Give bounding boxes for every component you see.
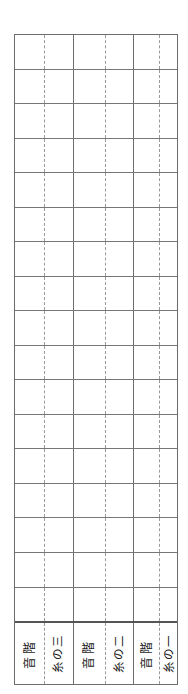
cell-scale-1[interactable]	[134, 208, 160, 242]
cell-scale-3[interactable]	[15, 346, 45, 380]
cell-string-1[interactable]	[160, 518, 178, 552]
cell-string-3[interactable]	[45, 104, 73, 138]
cell-string-3[interactable]	[45, 35, 73, 69]
cell-string-3[interactable]	[45, 518, 73, 552]
cell-string-2[interactable]	[106, 70, 134, 104]
cell-string-2[interactable]	[106, 518, 134, 552]
cell-string-2[interactable]	[106, 208, 134, 242]
cell-scale-2[interactable]	[74, 311, 106, 345]
cell-string-2[interactable]	[106, 415, 134, 449]
table-row[interactable]	[15, 553, 177, 588]
cell-string-1[interactable]	[160, 70, 178, 104]
cell-string-2[interactable]	[106, 449, 134, 483]
cell-string-1[interactable]	[160, 380, 178, 414]
cell-scale-2[interactable]	[74, 588, 106, 622]
cell-string-1[interactable]	[160, 553, 178, 587]
cell-string-1[interactable]	[160, 449, 178, 483]
cell-string-2[interactable]	[106, 346, 134, 380]
cell-string-2[interactable]	[106, 139, 134, 173]
cell-string-2[interactable]	[106, 588, 134, 622]
cell-scale-1[interactable]	[134, 277, 160, 311]
table-row[interactable]	[15, 415, 177, 450]
cell-scale-1[interactable]	[134, 553, 160, 587]
cell-scale-1[interactable]	[134, 346, 160, 380]
table-row[interactable]	[15, 208, 177, 243]
cell-scale-3[interactable]	[15, 277, 45, 311]
cell-string-1[interactable]	[160, 346, 178, 380]
cell-scale-2[interactable]	[74, 242, 106, 276]
cell-string-1[interactable]	[160, 104, 178, 138]
cell-string-2[interactable]	[106, 277, 134, 311]
cell-string-2[interactable]	[106, 311, 134, 345]
cell-scale-3[interactable]	[15, 70, 45, 104]
cell-scale-3[interactable]	[15, 518, 45, 552]
table-row[interactable]	[15, 346, 177, 381]
cell-scale-2[interactable]	[74, 415, 106, 449]
cell-string-2[interactable]	[106, 484, 134, 518]
table-row[interactable]	[15, 104, 177, 139]
cell-scale-2[interactable]	[74, 449, 106, 483]
table-row[interactable]	[15, 70, 177, 105]
cell-scale-1[interactable]	[134, 588, 160, 622]
cell-string-3[interactable]	[45, 208, 73, 242]
cell-string-3[interactable]	[45, 449, 73, 483]
cell-string-3[interactable]	[45, 277, 73, 311]
cell-scale-2[interactable]	[74, 104, 106, 138]
cell-scale-2[interactable]	[74, 553, 106, 587]
cell-scale-2[interactable]	[74, 208, 106, 242]
cell-scale-3[interactable]	[15, 173, 45, 207]
cell-string-3[interactable]	[45, 173, 73, 207]
table-row[interactable]	[15, 311, 177, 346]
cell-scale-1[interactable]	[134, 311, 160, 345]
cell-string-2[interactable]	[106, 35, 134, 69]
cell-string-3[interactable]	[45, 311, 73, 345]
cell-scale-1[interactable]	[134, 484, 160, 518]
cell-scale-3[interactable]	[15, 380, 45, 414]
cell-string-3[interactable]	[45, 139, 73, 173]
table-row[interactable]	[15, 380, 177, 415]
cell-scale-3[interactable]	[15, 104, 45, 138]
table-row[interactable]	[15, 449, 177, 484]
cell-scale-2[interactable]	[74, 346, 106, 380]
cell-string-1[interactable]	[160, 277, 178, 311]
cell-string-3[interactable]	[45, 70, 73, 104]
cell-string-3[interactable]	[45, 380, 73, 414]
cell-string-3[interactable]	[45, 415, 73, 449]
cell-scale-3[interactable]	[15, 311, 45, 345]
cell-string-1[interactable]	[160, 311, 178, 345]
cell-scale-1[interactable]	[134, 380, 160, 414]
cell-scale-2[interactable]	[74, 35, 106, 69]
table-row[interactable]	[15, 173, 177, 208]
table-row[interactable]	[15, 518, 177, 553]
table-row[interactable]	[15, 242, 177, 277]
cell-scale-3[interactable]	[15, 242, 45, 276]
table-row[interactable]	[15, 35, 177, 70]
table-row[interactable]	[15, 277, 177, 312]
cell-scale-1[interactable]	[134, 35, 160, 69]
cell-scale-1[interactable]	[134, 173, 160, 207]
cell-string-1[interactable]	[160, 208, 178, 242]
cell-string-1[interactable]	[160, 173, 178, 207]
cell-scale-1[interactable]	[134, 449, 160, 483]
cell-scale-1[interactable]	[134, 415, 160, 449]
cell-string-3[interactable]	[45, 242, 73, 276]
cell-string-2[interactable]	[106, 242, 134, 276]
cell-scale-1[interactable]	[134, 70, 160, 104]
cell-string-1[interactable]	[160, 588, 178, 622]
cell-scale-2[interactable]	[74, 139, 106, 173]
cell-string-3[interactable]	[45, 553, 73, 587]
table-row[interactable]	[15, 139, 177, 174]
cell-scale-3[interactable]	[15, 449, 45, 483]
cell-scale-3[interactable]	[15, 484, 45, 518]
cell-string-3[interactable]	[45, 346, 73, 380]
cell-string-2[interactable]	[106, 553, 134, 587]
table-row[interactable]	[15, 588, 177, 623]
cell-string-3[interactable]	[45, 588, 73, 622]
cell-scale-3[interactable]	[15, 415, 45, 449]
cell-scale-2[interactable]	[74, 518, 106, 552]
cell-scale-1[interactable]	[134, 104, 160, 138]
cell-scale-1[interactable]	[134, 518, 160, 552]
cell-scale-2[interactable]	[74, 70, 106, 104]
cell-scale-2[interactable]	[74, 173, 106, 207]
cell-scale-2[interactable]	[74, 484, 106, 518]
